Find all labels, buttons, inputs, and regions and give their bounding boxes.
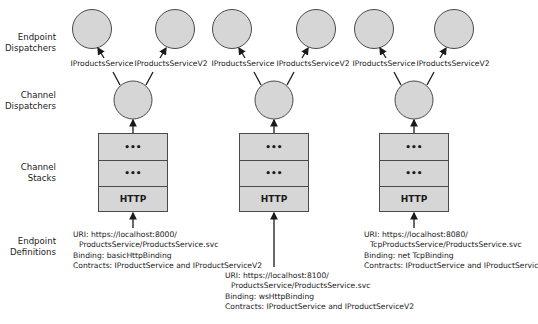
channel-stack-transport: HTTP <box>99 186 167 211</box>
arrow <box>380 48 386 58</box>
definition-uri: URI: https://localhost:8000/ <box>73 230 262 240</box>
channel-stack-layer: ••• <box>240 160 308 187</box>
channel-dispatcher-nodes <box>114 81 433 119</box>
endpoint-dispatcher-nodes <box>73 10 474 49</box>
connector <box>113 72 120 85</box>
channel-stack: ••• ••• HTTP <box>98 133 168 212</box>
endpoint-dispatcher-node <box>213 10 252 49</box>
arrow <box>302 48 308 58</box>
definition-uri: URI: https://localhost:8100/ <box>225 271 414 281</box>
connector <box>287 72 294 85</box>
channel-dispatcher-node <box>114 81 152 119</box>
connector <box>254 72 261 85</box>
channel-stack-layer: ••• <box>380 134 448 161</box>
endpoint-definition: URI: https://localhost:8100/ ProductsSer… <box>225 271 414 312</box>
channel-stack-layer: ••• <box>240 134 308 161</box>
channel-dispatcher-node <box>395 81 433 119</box>
channel-stack-transport: HTTP <box>380 186 448 211</box>
endpoint-dispatcher-node <box>73 10 112 49</box>
definition-binding: Binding: basicHttpBinding <box>73 251 262 261</box>
arrow <box>440 48 446 58</box>
channel-stack-transport: HTTP <box>240 186 308 211</box>
service-label: IProductsServiceV2 <box>134 59 207 68</box>
channel-stack-layer: ••• <box>380 160 448 187</box>
endpoint-dispatcher-node <box>435 10 474 49</box>
arrow <box>239 48 245 58</box>
definition-uri-path: TcpProductsService/ProductsService.svc <box>364 240 538 250</box>
definition-uri: URI: https://localhost:8080/ <box>364 230 538 240</box>
service-label: IProductsService <box>70 59 133 68</box>
service-label: IProductsServiceV2 <box>416 59 489 68</box>
connector <box>146 72 153 85</box>
channel-dispatcher-node <box>255 81 293 119</box>
channel-stack: ••• ••• HTTP <box>379 133 449 212</box>
definition-contracts: Contracts: IProductService and IProductS… <box>73 261 262 271</box>
endpoint-dispatcher-node <box>355 10 394 49</box>
arrow <box>160 48 166 58</box>
definition-binding: Binding: wsHttpBinding <box>225 292 414 302</box>
endpoint-definition: URI: https://localhost:8000/ ProductsSer… <box>73 230 262 271</box>
channel-stack: ••• ••• HTTP <box>239 133 309 212</box>
definition-contracts: Contracts: IProductService and IProductS… <box>364 261 538 271</box>
arrow <box>98 48 104 58</box>
endpoint-dispatcher-node <box>297 10 336 49</box>
endpoint-dispatcher-node <box>156 10 195 49</box>
service-label: IProductsService <box>211 59 274 68</box>
service-label: IProductsService <box>352 59 415 68</box>
connector <box>427 72 434 85</box>
definition-contracts: Contracts: IProductService and IProductS… <box>225 302 414 312</box>
channel-stack-layer: ••• <box>99 160 167 187</box>
service-label: IProductsServiceV2 <box>276 59 349 68</box>
connector <box>394 72 401 85</box>
definition-uri-path: ProductsService/ProductsService.svc <box>225 281 414 291</box>
definition-uri-path: ProductsService/ProductsService.svc <box>73 240 262 250</box>
definition-binding: Binding: net TcpBinding <box>364 251 538 261</box>
channel-stack-layer: ••• <box>99 134 167 161</box>
endpoint-definition: URI: https://localhost:8080/ TcpProducts… <box>364 230 538 271</box>
